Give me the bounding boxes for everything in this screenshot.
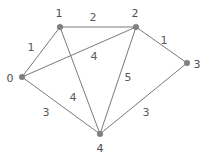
graph-node-4[interactable] <box>97 131 103 137</box>
graph-edge-3-4 <box>100 63 187 134</box>
graph-node-0[interactable] <box>19 74 25 80</box>
node-label-0: 0 <box>7 73 14 84</box>
graph-edge-0-4 <box>22 77 100 134</box>
node-label-4: 4 <box>97 143 104 154</box>
edge-weight-label-2-3: 1 <box>161 35 168 46</box>
graph-figure: 1241345301234 <box>0 0 207 155</box>
graph-node-3[interactable] <box>184 60 190 66</box>
node-label-2: 2 <box>132 8 139 19</box>
graph-node-2[interactable] <box>133 24 139 30</box>
graph-canvas <box>0 0 207 155</box>
graph-edge-0-2 <box>22 27 136 77</box>
edge-weight-label-1-2: 2 <box>90 12 97 23</box>
graph-edge-1-4 <box>60 27 100 134</box>
edge-weight-label-0-4: 3 <box>43 107 50 118</box>
graph-node-1[interactable] <box>57 24 63 30</box>
node-label-1: 1 <box>56 8 63 19</box>
edge-weight-label-3-4: 3 <box>143 107 150 118</box>
node-label-3: 3 <box>194 59 201 70</box>
edge-weight-label-2-4: 5 <box>125 72 132 83</box>
edge-weight-label-1-4: 4 <box>70 92 77 103</box>
edge-weight-label-0-2: 4 <box>91 51 98 62</box>
edge-weight-label-0-1: 1 <box>28 42 35 53</box>
